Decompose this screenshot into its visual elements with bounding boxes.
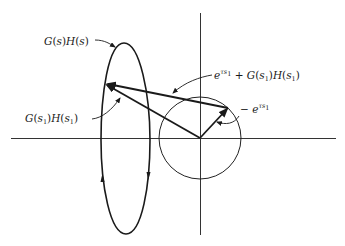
label-sum: eτs1 + G(s1)H(s1) — [214, 69, 300, 83]
leader-sum — [173, 75, 212, 93]
contour-arrow-up-icon — [101, 174, 105, 182]
label-point-G-s1: G(s1)H(s1) — [25, 113, 78, 126]
leader-point — [92, 98, 120, 119]
label-neg-e: − eτs1 — [240, 103, 269, 115]
label-contour-GH: G(s)H(s) — [44, 36, 89, 47]
contour-arrow-down-icon — [147, 172, 151, 180]
leader-contour — [95, 40, 115, 47]
